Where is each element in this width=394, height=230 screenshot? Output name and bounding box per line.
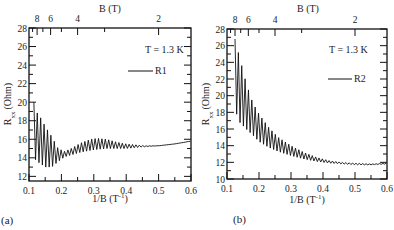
panel-a-y-axis-label: Rxx(Ohm) xyxy=(2,83,17,125)
y-tick-label: 24 xyxy=(18,61,28,71)
top-tick-label: 6 xyxy=(246,15,251,25)
y-tick-label: 12 xyxy=(216,158,226,168)
top-tick-label: 2 xyxy=(353,15,358,25)
panel-a: 0.10.20.30.40.50.61214161820222426288642… xyxy=(1,3,197,227)
y-tick-label: 14 xyxy=(18,153,28,163)
panel-a-legend-label: R1 xyxy=(155,65,167,76)
x-tick-label: 0.1 xyxy=(23,186,35,196)
x-tick-label: 0.3 xyxy=(285,184,297,194)
x-tick-label: 0.6 xyxy=(185,186,197,196)
y-tick-label: 26 xyxy=(18,42,28,52)
panel-b-temperature-annotation: T = 1.3 K xyxy=(329,44,369,55)
panel-a-x-axis-label: 1/B (T-1) xyxy=(92,192,128,205)
top-tick-label: 4 xyxy=(75,14,80,24)
panel-b: 0.10.20.30.40.50.61012141618202224262886… xyxy=(200,3,393,226)
panel-b-y-axis-label: Rxx(Ohm) xyxy=(200,83,215,125)
x-tick-label: 0.1 xyxy=(221,184,233,194)
top-tick-label: 6 xyxy=(48,14,53,24)
y-tick-label: 20 xyxy=(18,98,28,108)
y-tick-label: 26 xyxy=(216,41,226,51)
panel-b-top-axis-label: B (T) xyxy=(297,3,319,15)
series-r1-line xyxy=(34,102,190,167)
y-tick-label: 12 xyxy=(18,172,28,182)
top-tick-label: 8 xyxy=(233,15,238,25)
panel-b-plot-area: 0.10.20.30.40.50.61012141618202224262886… xyxy=(216,15,394,194)
series-r2-line xyxy=(235,39,386,165)
x-tick-label: 0.2 xyxy=(253,184,265,194)
panel-a-temperature-annotation: T = 1.3 K xyxy=(145,44,185,55)
panel-a-top-axis-label: B (T) xyxy=(99,3,121,15)
panel-a-plot-area: 0.10.20.30.40.50.61214161820222426288642 xyxy=(18,14,198,196)
y-tick-label: 16 xyxy=(18,135,28,145)
y-tick-label: 28 xyxy=(18,24,28,34)
y-tick-label: 14 xyxy=(216,141,226,151)
y-tick-label: 28 xyxy=(216,25,226,35)
top-tick-label: 2 xyxy=(156,14,161,24)
y-tick-label: 18 xyxy=(216,108,226,118)
panel-b-x-axis-label: 1/B (T-1) xyxy=(289,193,325,206)
y-tick-label: 16 xyxy=(216,125,226,135)
x-tick-label: 0.5 xyxy=(349,184,361,194)
panel-a-label: (a) xyxy=(1,214,14,227)
figure: 0.10.20.30.40.50.61214161820222426288642… xyxy=(0,0,394,230)
top-tick-label: 8 xyxy=(35,14,40,24)
y-tick-label: 20 xyxy=(216,91,226,101)
y-tick-label: 24 xyxy=(216,58,226,68)
y-tick-label: 18 xyxy=(18,116,28,126)
y-tick-label: 10 xyxy=(216,175,226,185)
x-tick-label: 0.2 xyxy=(55,186,67,196)
x-tick-label: 0.6 xyxy=(381,184,393,194)
panel-b-label: (b) xyxy=(233,213,246,226)
top-tick-label: 4 xyxy=(273,15,278,25)
panel-b-legend-label: R2 xyxy=(354,73,366,84)
y-tick-label: 22 xyxy=(216,75,226,85)
y-tick-label: 22 xyxy=(18,79,28,89)
x-tick-label: 0.5 xyxy=(153,186,165,196)
